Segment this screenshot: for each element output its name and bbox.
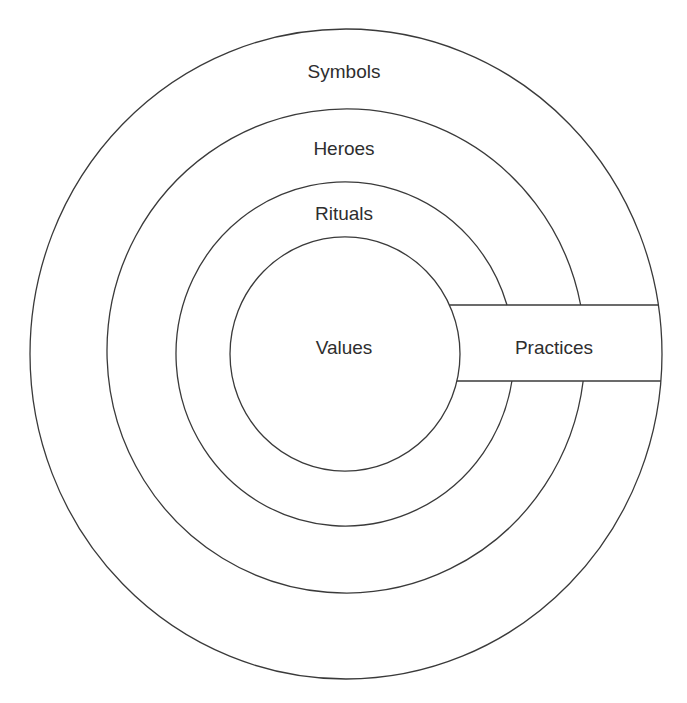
onion-diagram: Symbols Heroes Rituals Values Practices [0,0,687,703]
label-values: Values [316,338,373,357]
label-rituals: Rituals [315,204,373,223]
label-heroes: Heroes [313,139,374,158]
label-practices: Practices [515,338,593,357]
label-symbols: Symbols [308,62,381,81]
